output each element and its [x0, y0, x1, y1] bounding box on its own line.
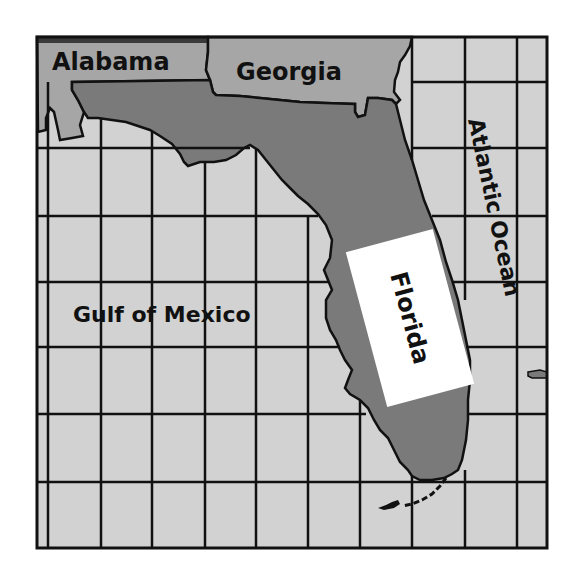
label-georgia: Georgia: [236, 58, 342, 86]
label-alabama: Alabama: [52, 48, 170, 76]
florida-map: Alabama Georgia Gulf of Mexico Atlantic …: [0, 0, 583, 585]
label-gulf-of-mexico: Gulf of Mexico: [73, 302, 251, 327]
island-fragment: [528, 370, 547, 378]
